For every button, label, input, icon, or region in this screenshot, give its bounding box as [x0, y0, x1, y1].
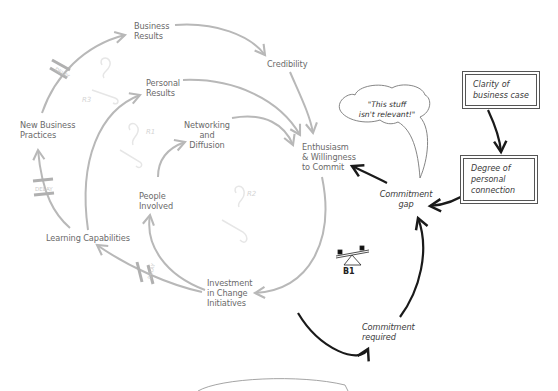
box-clarity-business-case: Clarity of business case [462, 71, 540, 109]
bottom-ellipse-partial [198, 379, 348, 391]
svg-text:DELAY: DELAY [35, 186, 53, 192]
variable-commitment-required: Commitment required [362, 322, 415, 342]
arrow-business-results-to-credibility [175, 25, 265, 55]
arrow-clarity-to-degree [488, 110, 501, 152]
variable-enthusiasm: Enthusiasm & Willingness to Commit [302, 142, 356, 172]
loop-label-r2: R2 [247, 190, 256, 198]
arrow-networking-to-enthusiasm [232, 117, 293, 145]
variable-credibility: Credibility [267, 59, 307, 69]
arrow-investment-to-required [298, 313, 368, 355]
arrow-enthusiasm-to-investment [255, 177, 325, 293]
variable-business-results: Business Results [134, 21, 169, 41]
variable-personal-results: Personal Results [146, 78, 180, 98]
variable-new-business-practices: New Business Practices [20, 120, 75, 140]
variable-networking-diffusion: Networking and Diffusion [180, 120, 234, 150]
variable-learning-capabilities: Learning Capabilities [46, 233, 130, 243]
box-degree-personal-connection: Degree of personal connection [460, 155, 538, 204]
loop-label-r3: R3 [82, 96, 91, 104]
loop-label-b1: B1 [343, 267, 355, 276]
arrow-gap-to-enthusiasm [352, 166, 387, 183]
variable-commitment-gap: Commitment gap [377, 189, 435, 209]
variable-people-involved: People Involved [139, 191, 173, 211]
arrow-learning-to-personal-results [86, 95, 140, 230]
loop-label-r1: R1 [146, 128, 155, 136]
variable-investment-change: Investment in Change Initiatives [207, 278, 252, 308]
balance-seesaw-icon [336, 246, 369, 265]
box-degree-text: Degree of personal connection [463, 158, 535, 201]
thought-bubble-text: "This stuff isn't relevant!" [352, 100, 422, 120]
box-clarity-text: Clarity of business case [465, 74, 537, 106]
arrow-required-to-gap [400, 218, 423, 317]
